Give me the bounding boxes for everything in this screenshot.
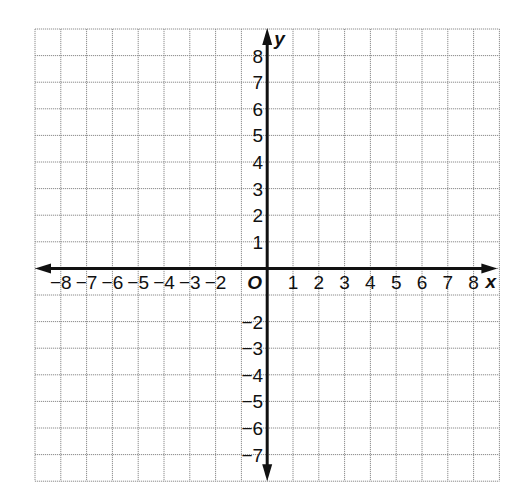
y-tick-labels: 87654321−2−3−4−5−6−7 xyxy=(242,46,264,466)
y-tick-label: 5 xyxy=(253,125,264,146)
axes xyxy=(35,28,497,481)
y-tick-label: 1 xyxy=(253,232,264,253)
x-tick-label: −7 xyxy=(76,272,98,293)
x-tick-label: 3 xyxy=(339,272,350,293)
origin-label: O xyxy=(247,272,262,293)
x-tick-label: 2 xyxy=(314,272,325,293)
y-tick-label: 8 xyxy=(253,46,264,67)
coordinate-plane: −8−7−6−5−4−3−212345678 87654321−2−3−4−5−… xyxy=(0,0,521,498)
x-tick-label: 8 xyxy=(468,272,479,293)
y-axis-down-arrow-icon xyxy=(262,464,272,481)
x-tick-label: 4 xyxy=(365,272,376,293)
x-tick-label: 5 xyxy=(391,272,402,293)
y-tick-label: 3 xyxy=(253,179,264,200)
y-tick-label: −6 xyxy=(242,418,264,439)
x-tick-label: 7 xyxy=(443,272,454,293)
y-axis-label: y xyxy=(273,28,286,49)
x-tick-labels: −8−7−6−5−4−3−212345678 xyxy=(50,272,479,293)
y-tick-label: −7 xyxy=(242,445,264,466)
x-tick-label: −2 xyxy=(205,272,227,293)
x-axis-left-arrow-icon xyxy=(35,263,51,273)
y-tick-label: 6 xyxy=(253,99,264,120)
y-tick-label: −5 xyxy=(242,391,264,412)
x-axis-label: x xyxy=(484,271,497,292)
x-tick-label: −3 xyxy=(179,272,201,293)
x-tick-label: 1 xyxy=(288,272,299,293)
y-tick-label: 7 xyxy=(253,72,264,93)
x-tick-label: 6 xyxy=(417,272,428,293)
y-tick-label: 2 xyxy=(253,205,264,226)
y-tick-label: 4 xyxy=(253,152,264,173)
x-tick-label: −8 xyxy=(50,272,72,293)
y-axis-up-arrow-icon xyxy=(262,28,272,45)
x-tick-label: −4 xyxy=(153,272,175,293)
y-tick-label: −4 xyxy=(242,365,264,386)
y-tick-label: −2 xyxy=(242,312,264,333)
x-tick-label: −6 xyxy=(102,272,124,293)
y-tick-label: −3 xyxy=(242,338,264,359)
x-tick-label: −5 xyxy=(127,272,149,293)
